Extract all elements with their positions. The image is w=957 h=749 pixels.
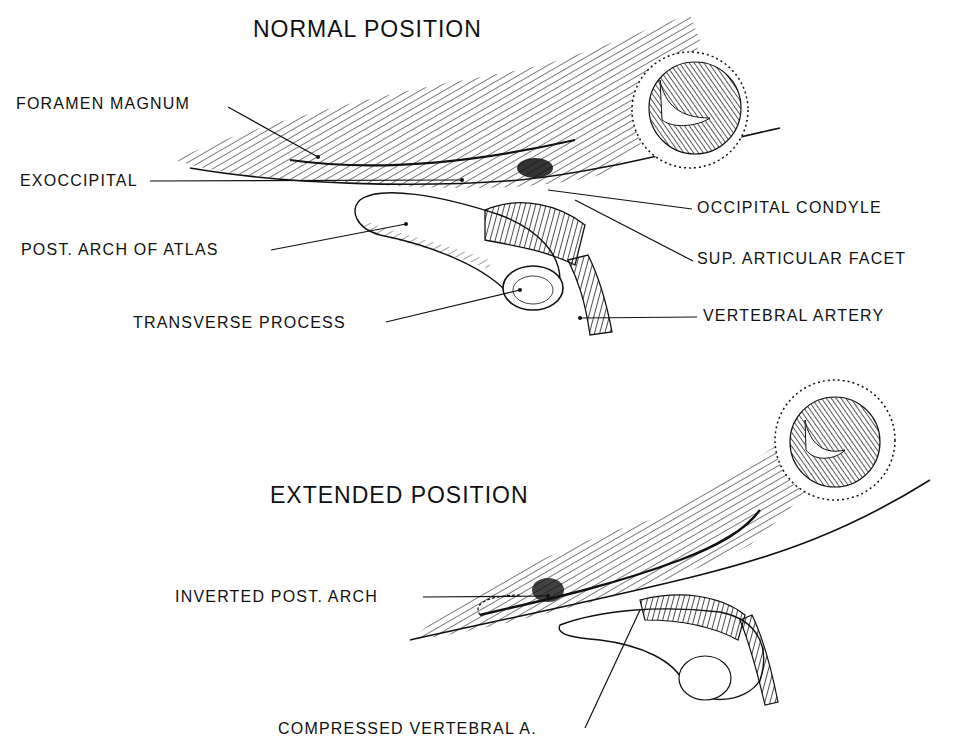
label-inverted-post-arch: INVERTED POST. ARCH (175, 588, 378, 606)
foramen-ring-icon (632, 52, 748, 168)
label-occipital-condyle: OCCIPITAL CONDYLE (697, 199, 882, 217)
label-vertebral-artery: VERTEBRAL ARTERY (703, 307, 884, 325)
label-transverse-process: TRANSVERSE PROCESS (133, 314, 346, 332)
label-post-arch-of-atlas: POST. ARCH OF ATLAS (21, 241, 219, 259)
label-foramen-magnum: FORAMEN MAGNUM (16, 95, 190, 113)
foramen-ring-icon (775, 380, 895, 500)
normal-atlas (355, 193, 612, 335)
extended-atlas (559, 595, 778, 705)
label-exoccipital: EXOCCIPITAL (20, 172, 138, 190)
label-compressed-vertebral-a: COMPRESSED VERTEBRAL A. (278, 720, 537, 738)
normal-position-title: NORMAL POSITION (253, 16, 482, 43)
label-sup-articular-facet: SUP. ARTICULAR FACET (697, 250, 906, 268)
extended-position-title: EXTENDED POSITION (270, 482, 529, 509)
